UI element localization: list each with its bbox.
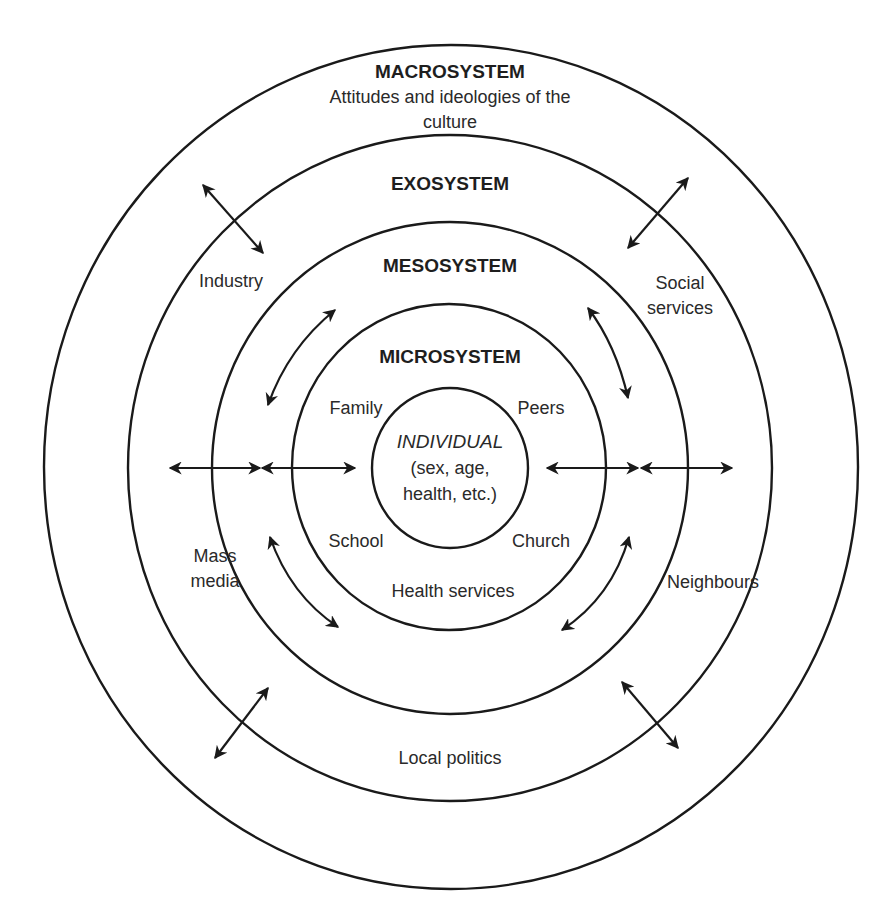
macrosystem-description-line1: Attitudes and ideologies of the xyxy=(329,87,570,107)
arrow-top-right-meso-icon xyxy=(588,308,628,398)
item-peers: Peers xyxy=(517,398,564,418)
item-mass-media-line1: Mass xyxy=(193,546,236,566)
arrow-bottom-left-exo-icon xyxy=(215,688,268,758)
item-social-services-line1: Social xyxy=(655,273,704,293)
item-health-services: Health services xyxy=(391,581,514,601)
item-school: School xyxy=(328,531,383,551)
arrow-bottom-right-meso-icon xyxy=(562,537,629,630)
individual-detail-line2: health, etc.) xyxy=(403,484,497,504)
item-social-services-line2: services xyxy=(647,298,713,318)
macrosystem-description-line2: culture xyxy=(423,112,477,132)
arrow-bottom-right-exo-icon xyxy=(622,682,678,748)
item-mass-media-line2: media xyxy=(190,571,240,591)
item-family: Family xyxy=(330,398,383,418)
item-local-politics: Local politics xyxy=(398,748,501,768)
exosystem-label: EXOSYSTEM xyxy=(391,173,509,194)
arrow-top-right-exo-icon xyxy=(628,178,688,248)
item-industry: Industry xyxy=(199,271,263,291)
microsystem-label: MICROSYSTEM xyxy=(379,346,520,367)
item-neighbours: Neighbours xyxy=(667,572,759,592)
mesosystem-label: MESOSYSTEM xyxy=(383,255,517,276)
item-church: Church xyxy=(512,531,570,551)
arrow-top-left-meso-icon xyxy=(268,310,335,405)
ecological-systems-diagram: MACROSYSTEM Attitudes and ideologies of … xyxy=(0,0,892,923)
individual-label: INDIVIDUAL xyxy=(397,431,504,452)
individual-detail-line1: (sex, age, xyxy=(410,458,489,478)
macrosystem-label: MACROSYSTEM xyxy=(375,61,525,82)
